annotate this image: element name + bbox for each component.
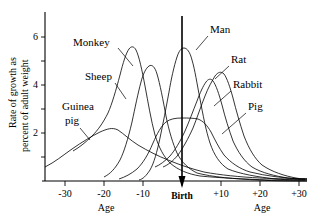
x-tick-label-minus10: -10 — [136, 188, 149, 199]
curve-label-rat: Rat — [231, 53, 246, 65]
x-tick-label-plus30: +30 — [291, 188, 307, 199]
leader-man — [196, 36, 208, 50]
curve-label-pig: Pig — [248, 100, 263, 112]
y-tick-label-2: 2 — [33, 127, 38, 138]
curve-label-rabbit: Rabbit — [233, 78, 262, 90]
curve-sheep — [73, 47, 305, 180]
curve-label-sheep: Sheep — [85, 70, 112, 82]
x-tick-label-minus20: -20 — [97, 188, 110, 199]
curve-man — [139, 48, 307, 180]
x-tick-label-minus30: -30 — [58, 188, 71, 199]
curve-label-monkey: Monkey — [73, 36, 110, 48]
birth-label: Birth — [171, 191, 193, 201]
x-axis-label-right: Age — [254, 202, 271, 213]
birth-arrow-icon — [179, 176, 186, 188]
curve-label-man: Man — [210, 23, 231, 35]
leader-monkey — [118, 48, 133, 66]
x-tick-label-plus20: +20 — [252, 188, 268, 199]
leader-rabbit — [214, 91, 231, 106]
y-axis-label-line2: percent of adult weight — [19, 59, 30, 152]
y-ticks — [41, 37, 45, 157]
curve-guinea-pig — [45, 129, 305, 179]
leader-rat — [215, 66, 229, 79]
x-axis-label-left: Age — [98, 202, 115, 213]
y-axis-label-line1: Rate of growth as — [7, 57, 18, 128]
leader-guinea-pig — [80, 128, 90, 140]
x-tick-label-plus10: +10 — [213, 188, 229, 199]
leader-sheep — [115, 83, 126, 99]
curve-pig — [119, 118, 307, 179]
curve-label-guinea: Guinea — [62, 100, 94, 112]
y-tick-label-4: 4 — [33, 79, 38, 90]
curve-label-guinea-pig: pig — [65, 114, 80, 126]
growth-rate-chart: Rate of growth as percent of adult weigh… — [0, 0, 318, 224]
y-tick-label-6: 6 — [33, 31, 38, 42]
